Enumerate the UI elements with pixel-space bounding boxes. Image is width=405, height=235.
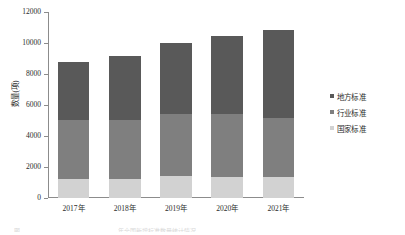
plot-area: 020004000600080001000012000 2017年2018年20…	[48, 12, 304, 198]
bar-stack	[211, 36, 243, 198]
y-axis-tick-label: 12000	[22, 7, 41, 17]
legend-item[interactable]: 国家标准	[330, 120, 402, 136]
bars-layer: 2017年2018年2019年2020年2021年	[48, 12, 304, 198]
bar-stack	[58, 62, 90, 198]
x-axis-category-label: 2017年	[63, 202, 85, 213]
bar-group[interactable]: 2018年	[109, 12, 141, 198]
y-axis-tick: 0	[44, 198, 48, 199]
y-axis-tick-label: 2000	[26, 162, 41, 172]
bar-segment[interactable]	[109, 56, 141, 120]
bar-segment[interactable]	[58, 62, 90, 120]
stacked-bar-chart-figure: 数量(项) 020004000600080001000012000 2017年2…	[0, 0, 405, 235]
legend-item-label: 地方标准	[337, 91, 366, 102]
bar-segment[interactable]	[160, 114, 192, 176]
caption-remnant-right: 年全国新增标准数量统计情况	[118, 226, 196, 232]
bar-segment[interactable]	[160, 176, 192, 198]
x-axis-category-label: 2020年	[216, 202, 238, 213]
bar-segment[interactable]	[263, 177, 295, 198]
chart-legend: 地方标准行业标准国家标准	[330, 88, 402, 136]
x-axis-category-label: 2018年	[114, 202, 136, 213]
bar-segment[interactable]	[160, 43, 192, 114]
y-axis-tick-label: 0	[37, 193, 41, 203]
legend-swatch-icon	[330, 94, 334, 98]
bar-group[interactable]: 2020年	[211, 12, 243, 198]
y-axis-tick-label: 10000	[22, 38, 41, 48]
y-axis-tick-label: 4000	[26, 131, 41, 141]
y-axis-tick-label: 6000	[26, 100, 41, 110]
bar-segment[interactable]	[58, 179, 90, 198]
bar-group[interactable]: 2021年	[263, 12, 295, 198]
legend-item-label: 行业标准	[337, 107, 366, 118]
legend-swatch-icon	[330, 110, 334, 114]
bar-stack	[263, 30, 295, 198]
bar-stack	[109, 56, 141, 198]
y-axis-title: 数量(项)	[9, 64, 20, 124]
bar-segment[interactable]	[211, 36, 243, 114]
x-axis-category-label: 2021年	[267, 202, 289, 213]
bar-segment[interactable]	[109, 179, 141, 198]
bar-group[interactable]: 2019年	[160, 12, 192, 198]
legend-item-label: 国家标准	[337, 123, 366, 134]
bar-group[interactable]: 2017年	[58, 12, 90, 198]
caption-remnant-left: 图	[14, 226, 20, 232]
x-axis-category-label: 2019年	[165, 202, 187, 213]
bar-segment[interactable]	[211, 177, 243, 198]
legend-item[interactable]: 行业标准	[330, 104, 402, 120]
legend-item[interactable]: 地方标准	[330, 88, 402, 104]
bar-stack	[160, 43, 192, 198]
legend-swatch-icon	[330, 126, 334, 130]
y-axis-tick-label: 8000	[26, 69, 41, 79]
bar-segment[interactable]	[211, 114, 243, 177]
bar-segment[interactable]	[109, 120, 141, 179]
bar-segment[interactable]	[263, 30, 295, 118]
bar-segment[interactable]	[58, 120, 90, 180]
bar-segment[interactable]	[263, 118, 295, 177]
